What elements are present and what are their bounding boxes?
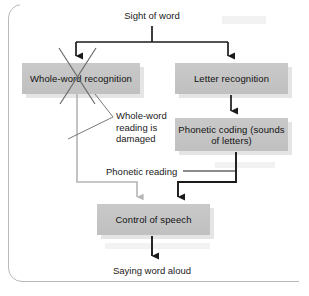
- connector-layer: [0, 0, 309, 296]
- figure-canvas: Sight of word Saying word aloud Whole-wo…: [0, 0, 309, 296]
- cross-out-mark-stroke-2: [60, 48, 96, 104]
- edge-phonetic-to-control: [178, 152, 236, 197]
- damaged-note-leader: [68, 117, 113, 139]
- damaged-note-leader-upper: [95, 94, 113, 117]
